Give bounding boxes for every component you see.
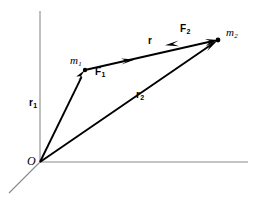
mass-2-point	[216, 38, 221, 43]
vector-r2-group	[40, 40, 218, 162]
vector-r1-label-subscript: 1	[33, 102, 37, 109]
mass-1-label: m1	[70, 55, 81, 66]
mass-1-label-subscript: 1	[78, 60, 82, 68]
origin-label: O	[27, 155, 36, 167]
force-f1-label-subscript: 1	[101, 71, 105, 78]
mass-2-label-text: m	[226, 26, 234, 38]
mass-1-point	[83, 68, 87, 72]
mass-2-label: m2	[226, 27, 237, 38]
force-f2-arrowhead	[165, 41, 179, 47]
mass-1-label-text: m	[70, 54, 78, 66]
vector-diagram-figure: O m1 m2 r1 r2 r F1 F2	[0, 0, 260, 201]
vector-r1-group	[40, 70, 85, 162]
vector-r2-label: r2	[136, 90, 144, 100]
vector-r1-label: r1	[29, 98, 37, 108]
vector-r2-label-subscript: 2	[140, 94, 144, 101]
force-f2-label-subscript: 2	[186, 28, 190, 35]
diagram-canvas	[0, 0, 260, 201]
vector-r-label: r	[148, 36, 152, 46]
mass-2-label-subscript: 2	[234, 32, 238, 40]
force-f1-label: F1	[95, 67, 105, 77]
force-f2-arrow-group	[165, 41, 179, 47]
force-f2-label: F2	[180, 24, 190, 34]
vector-r1-shaft	[40, 77, 82, 162]
